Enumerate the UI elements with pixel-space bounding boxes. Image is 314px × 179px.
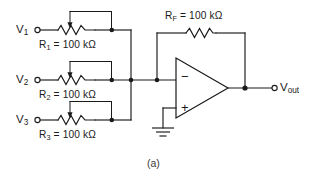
output-terminal-vout[interactable]	[272, 85, 277, 90]
input-branch-v1	[35, 12, 114, 35]
resistor-label-rf-value: = 100 kΩ	[180, 10, 223, 21]
resistor-label-rf: RF= 100 kΩ	[165, 11, 223, 22]
figure-caption: (a)	[147, 158, 160, 169]
opamp-symbol	[163, 58, 272, 118]
output-label-vout-text: V	[280, 81, 288, 93]
resistor-label-r3-sub: 3	[47, 133, 51, 142]
opamp-inverting-sign: −	[181, 70, 189, 83]
resistor-label-r2-value: = 100 kΩ	[54, 89, 97, 100]
resistor-r2-zigzag	[58, 75, 95, 84]
source-label-v1-text: V	[16, 23, 24, 35]
resistor-label-r1-sub: 1	[47, 43, 51, 52]
input-terminal-v3[interactable]	[35, 117, 40, 122]
junction-dot-summing-bus	[129, 78, 134, 83]
resistor-r1-zigzag	[58, 25, 95, 34]
input-terminal-v1[interactable]	[35, 27, 40, 32]
circuit-figure: V1 R1= 100 kΩ V2 R2= 100 kΩ V3 R3= 100 k…	[0, 0, 314, 179]
resistor-label-r3-name: R	[39, 129, 47, 140]
input-branch-v2	[35, 62, 114, 85]
resistor-label-r2-sub: 2	[47, 93, 51, 102]
source-label-v2-text: V	[16, 73, 24, 85]
resistor-label-r1-name: R	[39, 39, 47, 50]
output-label-vout-sub: out	[288, 86, 300, 95]
resistor-label-r3-value: = 100 kΩ	[54, 129, 97, 140]
ground-connection	[153, 108, 174, 136]
resistor-label-rf-sub: F	[173, 14, 177, 23]
source-label-v1: V1	[16, 24, 28, 38]
input-terminal-v2[interactable]	[35, 77, 40, 82]
input-branch-v3	[35, 102, 114, 125]
opamp-noninverting-sign: +	[181, 101, 189, 114]
output-terminal-group	[272, 85, 277, 90]
resistor-label-r2: R2= 100 kΩ	[39, 90, 96, 101]
resistor-label-r2-name: R	[39, 89, 47, 100]
source-label-v2: V2	[16, 74, 28, 88]
source-label-v2-sub: 2	[24, 78, 29, 87]
output-label-vout: Vout	[280, 82, 299, 96]
resistor-rf-zigzag	[186, 28, 216, 37]
resistor-r3-zigzag	[58, 115, 95, 124]
source-label-v3-text: V	[16, 113, 24, 125]
source-label-v3-sub: 3	[24, 118, 29, 127]
source-label-v3: V3	[16, 114, 28, 128]
resistor-label-r1: R1= 100 kΩ	[39, 40, 96, 51]
source-label-v1-sub: 1	[24, 28, 29, 37]
resistor-label-r1-value: = 100 kΩ	[54, 39, 97, 50]
resistor-label-rf-name: R	[165, 10, 173, 21]
junction-dot-output	[242, 85, 247, 90]
resistor-label-r3: R3= 100 kΩ	[39, 130, 96, 141]
